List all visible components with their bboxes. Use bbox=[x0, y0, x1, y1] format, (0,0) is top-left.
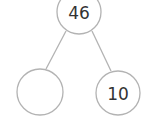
edge-whole-to-left bbox=[46, 31, 66, 69]
node-part-right: 10 bbox=[96, 71, 140, 115]
circle-part-left bbox=[17, 69, 63, 115]
number-bond-diagram: ) 46 10 bbox=[0, 0, 143, 124]
node-part-right-label: 10 bbox=[107, 84, 129, 104]
node-whole: 46 bbox=[57, 0, 101, 34]
edge-whole-to-right bbox=[92, 31, 111, 71]
partial-left-glyph: ) bbox=[0, 4, 1, 24]
node-part-left bbox=[17, 69, 63, 115]
node-whole-label: 46 bbox=[68, 3, 90, 23]
